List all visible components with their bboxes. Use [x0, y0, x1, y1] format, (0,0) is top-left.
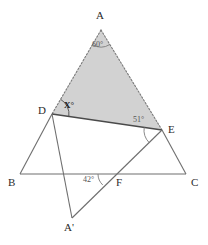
shaded-triangle-ADE [52, 30, 162, 130]
vertex-label-F: F [116, 177, 122, 188]
geometry-canvas [0, 0, 208, 245]
vertex-label-B: B [8, 177, 15, 188]
vertex-label-A: A [96, 10, 104, 21]
angle-arc-at-F [98, 174, 103, 185]
vertex-label-D: D [38, 105, 46, 116]
vertex-label-A-prime: A' [64, 222, 74, 233]
geometry-figure: A B C D E F A' 60° X° 51° 42° [0, 0, 208, 245]
segment-C-E [162, 130, 186, 174]
segment-B-D [20, 114, 52, 174]
vertex-label-C: C [191, 177, 198, 188]
angle-label-at-D: X° [64, 101, 74, 110]
angle-label-at-A: 60° [92, 41, 103, 49]
angle-label-at-F: 42° [83, 176, 94, 184]
angle-arc-at-E [144, 127, 149, 142]
segment-D-Aprime [52, 114, 72, 218]
vertex-label-E: E [168, 124, 175, 135]
angle-label-at-E: 51° [133, 116, 144, 124]
